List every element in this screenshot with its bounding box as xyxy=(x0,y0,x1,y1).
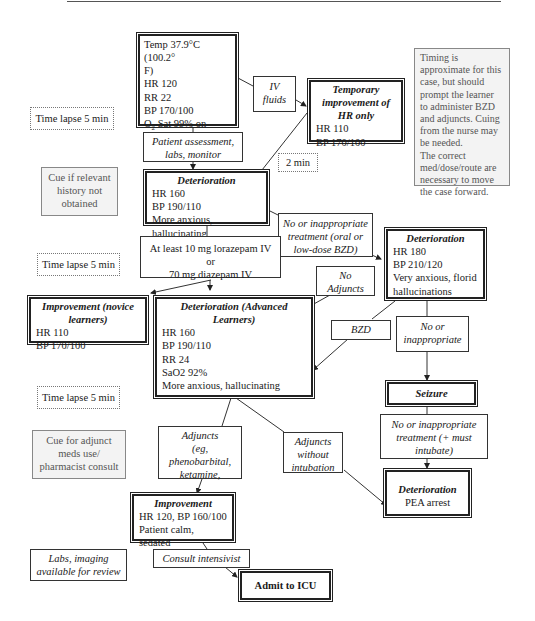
rr-reading: RR 24 xyxy=(162,353,306,366)
note-line: Timing is xyxy=(420,52,504,64)
cue-line: obtained xyxy=(47,197,112,210)
temp-reading: Temp 37.9°C (100.2° xyxy=(144,38,231,64)
pea-arrest-text: PEA arrest xyxy=(392,496,463,509)
label-line: No or inappropriate xyxy=(385,418,483,431)
consult-intensivist-label: Consult intensivist xyxy=(153,549,250,568)
deterioration-advanced-box: Deterioration (Advanced Learners) HR 160… xyxy=(153,295,315,399)
seizure-title: Seizure xyxy=(394,387,469,400)
hr-reading: HR 180 xyxy=(393,245,478,258)
deterioration-title: Deterioration xyxy=(392,483,463,496)
temporary-improvement-box: Temporary improvement of HR only HR 110 … xyxy=(307,78,405,144)
label-line: treatment (+ must xyxy=(385,431,483,444)
no-inappropriate-treatment-label-1: No or inappropriate treatment (oral or l… xyxy=(278,213,373,257)
hr-reading: HR 110 xyxy=(316,122,396,135)
time-lapse-label-2: Time lapse 5 min xyxy=(37,253,120,276)
note-line: to administer BZD xyxy=(420,101,504,113)
label-line: Labs, imaging xyxy=(35,552,122,565)
seizure-box: Seizure xyxy=(385,380,478,407)
bp-reading: BP 190/110 xyxy=(162,339,306,352)
bzd-dose-line2: 70 mg diazepam IV xyxy=(145,268,276,281)
deterioration-title: Deterioration xyxy=(393,232,478,245)
label-line: phenobarbital, xyxy=(163,455,237,468)
patient-assessment-line2: labs, monitor xyxy=(148,148,238,161)
cue-line: Cue for adjunct xyxy=(38,434,120,447)
timing-note: Timing is approximate for this case, but… xyxy=(414,48,510,186)
iv-fluids-label: IV fluids xyxy=(253,76,296,112)
bzd-dose-line1: At least 10 mg lorazepam IV or xyxy=(145,242,276,268)
no-inappropriate-label-2: No or inappropriate xyxy=(396,316,469,352)
cue-adjunct-note: Cue for adjunct meds use/ pharmacist con… xyxy=(32,430,126,479)
iv-fluids-line2: fluids xyxy=(258,93,291,106)
cue-line: Cue if relevant xyxy=(47,171,112,184)
label-line: treatment (oral or xyxy=(283,230,368,243)
page-header-rule xyxy=(67,1,501,2)
deterioration-box-1: Deterioration HR 160 BP 190/110 More anx… xyxy=(143,169,270,226)
note-line: the case forward. xyxy=(420,186,504,198)
label-line: intubate) xyxy=(385,444,483,457)
o2-prefix: O xyxy=(144,118,152,129)
improvement-title: Improvement (novice learners) xyxy=(36,300,140,326)
hr-reading: HR 160 xyxy=(152,187,261,200)
label-line: No or inappropriate xyxy=(283,217,368,230)
bp-reading: BP 190/110 xyxy=(152,200,261,213)
hr-reading: HR 160 xyxy=(162,326,306,339)
o2-sat-reading: O2 Sat 99% on xyxy=(144,117,231,133)
adjuncts-label: Adjuncts (eg, phenobarbital, ketamine, xyxy=(158,426,242,479)
iv-fluids-line1: IV xyxy=(258,80,291,93)
cue-line: history not xyxy=(47,184,112,197)
hr-reading: HR 110 xyxy=(36,326,140,339)
sao2-reading: SaO2 92% xyxy=(162,366,306,379)
deterioration-title: Deterioration xyxy=(152,174,261,187)
cue-history-note: Cue if relevant history not obtained xyxy=(41,167,118,216)
mental-status: More anxious, hallucinating xyxy=(162,379,306,392)
cue-line: meds use/ xyxy=(38,447,120,460)
bzd-label: BZD xyxy=(331,320,391,340)
label-line: without xyxy=(288,448,338,461)
note-line: prompt the learner xyxy=(420,89,504,101)
note-line: approximate for this xyxy=(420,64,504,76)
labs-imaging-note: Labs, imaging available for review xyxy=(30,549,127,581)
note-line: med/dose/route are xyxy=(420,162,504,174)
hr-reading: HR 120 xyxy=(144,77,231,90)
label-line: (eg, xyxy=(163,442,237,455)
note-line: case, but should xyxy=(420,76,504,88)
note-line: The correct xyxy=(420,150,504,162)
deterioration-box-2: Deterioration HR 180 BP 210/120 Very anx… xyxy=(384,227,487,301)
bp-reading: BP 170/100 xyxy=(316,136,396,149)
improvement-title: Improvement xyxy=(139,497,227,510)
note-line: and adjuncts. Cuing xyxy=(420,113,504,125)
patient-assessment-line1: Patient assessment, xyxy=(148,135,238,148)
deterioration-advanced-title: Deterioration (Advanced Learners) xyxy=(162,300,306,326)
note-line: be needed. xyxy=(420,137,504,149)
improvement-novice-box: Improvement (novice learners) HR 110 BP … xyxy=(27,295,149,345)
bp-reading: BP 210/120 xyxy=(393,258,478,271)
note-line: from the nurse may xyxy=(420,125,504,137)
label-line: Adjuncts xyxy=(163,429,237,442)
initial-state-box: Temp 37.9°C (100.2° F) HR 120 RR 22 BP 1… xyxy=(136,32,239,128)
improvement-final-box: Improvement HR 120, BP 160/100 Patient c… xyxy=(130,492,236,543)
note-line: necessary to move xyxy=(420,174,504,186)
o2-rest: Sat 99% on xyxy=(155,118,206,129)
label-line: No xyxy=(321,269,370,282)
label-line: No or xyxy=(401,320,464,333)
no-adjuncts-label: No Adjuncts xyxy=(316,266,375,296)
label-line: inappropriate xyxy=(401,333,464,346)
patient-assessment-label: Patient assessment, labs, monitor xyxy=(143,132,243,162)
cue-line: pharmacist consult xyxy=(38,460,120,473)
admit-icu-text: Admit to ICU xyxy=(255,580,317,591)
bzd-dose-box: At least 10 mg lorazepam IV or 70 mg dia… xyxy=(140,236,281,278)
deterioration-pea-box: Deterioration PEA arrest xyxy=(383,468,472,518)
mental-status: Very anxious, florid xyxy=(393,271,478,284)
label-line: intubation xyxy=(288,461,338,474)
admit-icu-box: Admit to ICU xyxy=(238,569,333,602)
label-line: ketamine, xyxy=(163,468,237,481)
patient-status: Patient calm, sedated xyxy=(139,523,227,549)
bp-reading: BP 170/100 xyxy=(36,339,140,352)
two-min-label: 2 min xyxy=(278,153,318,172)
temp-reading-cont: F) xyxy=(144,64,231,77)
label-line: available for review xyxy=(35,565,122,578)
time-lapse-label-1: Time lapse 5 min xyxy=(30,107,114,130)
mental-status-cont: hallucinations xyxy=(393,285,478,298)
bp-reading: BP 170/100 xyxy=(144,104,231,117)
adjuncts-without-intubation-label: Adjuncts without intubation xyxy=(283,432,343,473)
